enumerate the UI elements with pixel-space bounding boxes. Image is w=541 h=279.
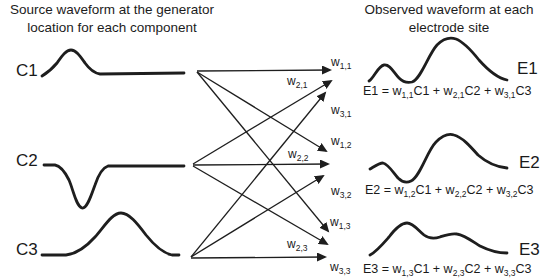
e3-waveform xyxy=(370,223,507,255)
e2-waveform xyxy=(370,134,507,182)
weight-label-w11: w1,1 xyxy=(331,55,352,69)
weight-label-w32: w3,2 xyxy=(331,184,352,198)
arrow-w11 xyxy=(197,70,330,71)
arrow-w22 xyxy=(193,164,328,165)
weight-label-w23: w2,3 xyxy=(287,237,308,251)
electrode-label-e2: E2 xyxy=(519,153,540,173)
left-panel-title: Source waveform at the generator locatio… xyxy=(0,1,224,37)
electrode-label-e3: E3 xyxy=(519,240,540,260)
c3-waveform xyxy=(42,213,179,255)
left-title-line2: location for each component xyxy=(0,19,224,37)
component-label-c1: C1 xyxy=(16,61,38,81)
right-title-line1: Observed waveform at each xyxy=(357,1,541,19)
right-title-line2: electrode site xyxy=(357,19,541,37)
weight-label-w21: w2,1 xyxy=(287,74,308,88)
observed-waveforms xyxy=(369,38,507,255)
left-title-line1: Source waveform at the generator xyxy=(0,1,224,19)
weight-label-w12: w1,2 xyxy=(331,134,352,148)
equation-e1: E1 = w1,1C1 + w2,1C2 + w3,1C3 xyxy=(363,84,532,98)
equation-e2: E2 = w1,2C1 + w2,2C2 + w3,2C3 xyxy=(365,183,534,197)
equation-e3: E3 = w1,3C1 + w2,3C2 + w3,3C3 xyxy=(363,262,532,276)
diagram-canvas xyxy=(0,0,541,279)
weight-label-w33: w3,3 xyxy=(330,260,351,274)
component-label-c3: C3 xyxy=(16,240,38,260)
component-label-c2: C2 xyxy=(16,151,38,171)
mixing-diagram: Source waveform at the generator locatio… xyxy=(0,0,541,279)
c2-waveform xyxy=(44,165,184,208)
weight-label-w13: w1,3 xyxy=(330,215,351,229)
c1-waveform xyxy=(42,50,184,76)
weight-label-w22: w2,2 xyxy=(288,147,309,161)
electrode-label-e1: E1 xyxy=(517,59,538,79)
right-panel-title: Observed waveform at each electrode site xyxy=(357,1,541,37)
e1-waveform xyxy=(369,38,507,82)
arrow-w31 xyxy=(191,93,325,257)
arrow-w33 xyxy=(191,257,325,258)
weight-label-w31: w3,1 xyxy=(331,103,352,117)
source-waveforms xyxy=(42,50,184,255)
mixing-arrows xyxy=(191,70,331,258)
